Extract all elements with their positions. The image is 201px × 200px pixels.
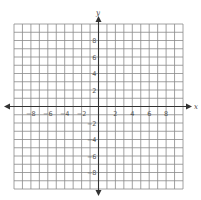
- y-axis-down-arrow-icon: [96, 190, 102, 196]
- y-tick-label: −8: [87, 169, 97, 177]
- x-tick-label: −2: [77, 110, 87, 118]
- axes: x y: [4, 9, 198, 196]
- x-axis-label: x: [194, 103, 198, 111]
- x-axis-right-arrow-icon: [186, 104, 192, 110]
- y-axis-label: y: [95, 9, 101, 17]
- y-tick-label: −6: [87, 153, 97, 161]
- x-tick-label: −4: [60, 110, 70, 118]
- x-tick-label: 4: [130, 110, 134, 118]
- y-tick-label: −2: [87, 120, 97, 128]
- x-axis-left-arrow-icon: [4, 104, 10, 110]
- y-tick-label: 8: [92, 37, 96, 45]
- x-tick-labels: −8−6−4−22468: [26, 110, 168, 118]
- x-tick-label: 2: [113, 110, 117, 118]
- x-tick-label: −8: [26, 110, 36, 118]
- coordinate-plane: x y −8−6−4−22468 8642−2−4−6−8: [0, 0, 201, 200]
- y-tick-label: 2: [92, 87, 96, 95]
- x-tick-label: 8: [164, 110, 168, 118]
- x-tick-label: 6: [147, 110, 151, 118]
- y-tick-label: −4: [87, 136, 97, 144]
- x-tick-label: −6: [43, 110, 53, 118]
- y-tick-label: 6: [92, 54, 96, 62]
- y-tick-label: 4: [92, 70, 96, 78]
